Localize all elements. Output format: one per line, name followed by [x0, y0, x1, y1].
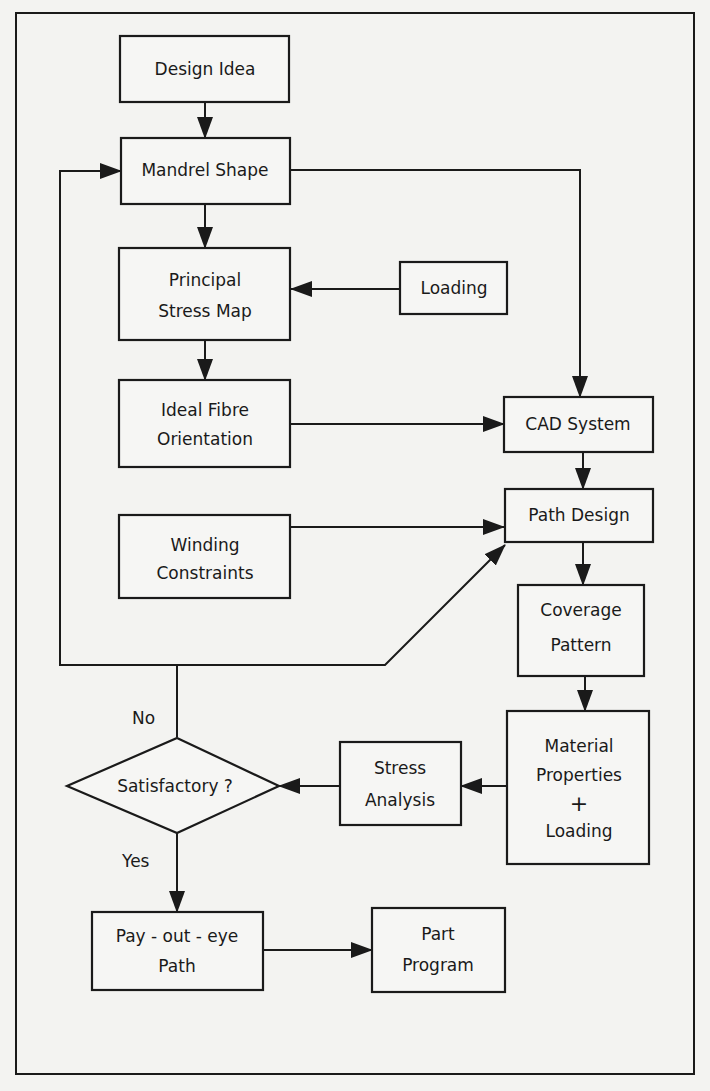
node-coverage-pattern: Coverage Pattern: [518, 585, 644, 676]
node-label: +: [570, 791, 588, 816]
node-mandrel-shape: Mandrel Shape: [121, 138, 290, 204]
node-label: Path Design: [528, 505, 629, 525]
node-label: Stress Map: [158, 301, 252, 321]
node-payout-eye-path: Pay - out - eye Path: [92, 912, 263, 990]
node-label: Coverage: [540, 600, 621, 620]
branch-label-yes: Yes: [121, 851, 150, 871]
node-label: Pattern: [550, 635, 611, 655]
node-label: Part: [421, 924, 455, 944]
node-label: Program: [402, 955, 474, 975]
node-cad-system: CAD System: [504, 397, 653, 452]
node-label: Constraints: [157, 563, 254, 583]
branch-label-no: No: [132, 708, 155, 728]
node-design-idea: Design Idea: [120, 36, 289, 102]
node-label: Ideal Fibre: [161, 400, 249, 420]
node-winding-constraints: Winding Constraints: [119, 515, 290, 598]
node-label: Path: [158, 956, 195, 976]
node-label: Orientation: [157, 429, 253, 449]
node-stress-analysis: Stress Analysis: [340, 742, 461, 825]
node-label: Material: [544, 736, 613, 756]
node-ideal-fibre-orientation: Ideal Fibre Orientation: [119, 380, 290, 467]
node-label: Pay - out - eye: [116, 926, 239, 946]
node-label: Loading: [545, 821, 612, 841]
node-material-properties-loading: Material Properties + Loading: [507, 711, 649, 864]
node-label: Stress: [374, 758, 426, 778]
node-label: Design Idea: [155, 59, 256, 79]
node-label: Analysis: [365, 790, 435, 810]
node-label: Principal: [169, 270, 241, 290]
node-label: Winding: [170, 535, 239, 555]
flowchart: Design Idea Mandrel Shape Principal Stre…: [0, 0, 710, 1091]
node-path-design: Path Design: [505, 489, 653, 542]
node-label: Loading: [420, 278, 487, 298]
node-satisfactory-decision: Satisfactory ?: [67, 738, 279, 833]
node-principal-stress-map: Principal Stress Map: [119, 248, 290, 340]
node-part-program: Part Program: [372, 908, 505, 992]
node-label: Mandrel Shape: [141, 160, 268, 180]
node-label: Properties: [536, 765, 622, 785]
node-label: Satisfactory ?: [117, 776, 233, 796]
node-label: CAD System: [525, 414, 630, 434]
node-loading: Loading: [400, 262, 507, 314]
